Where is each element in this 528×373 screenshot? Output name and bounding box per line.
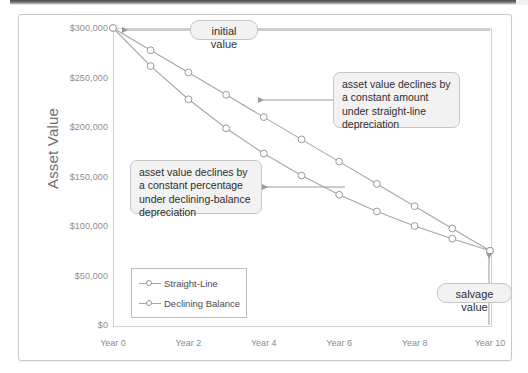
legend-marker-icon <box>139 299 161 308</box>
annotation-leader-lines <box>0 0 528 373</box>
legend-marker-icon <box>139 279 161 288</box>
legend-item-straight-line: Straight-Line <box>139 278 218 289</box>
callout-salvage-value: salvage value <box>437 283 512 303</box>
legend-label: Straight-Line <box>164 278 218 289</box>
callout-initial-value: initial value <box>190 20 258 40</box>
legend-label: Declining Balance <box>164 298 240 309</box>
legend-item-declining-balance: Declining Balance <box>139 298 240 309</box>
chart-legend: Straight-Line Declining Balance <box>131 268 247 318</box>
callout-straight-line-note: asset value declines by a constant amoun… <box>333 72 460 128</box>
callout-declining-balance-note: asset value declines by a constant perce… <box>130 160 262 214</box>
